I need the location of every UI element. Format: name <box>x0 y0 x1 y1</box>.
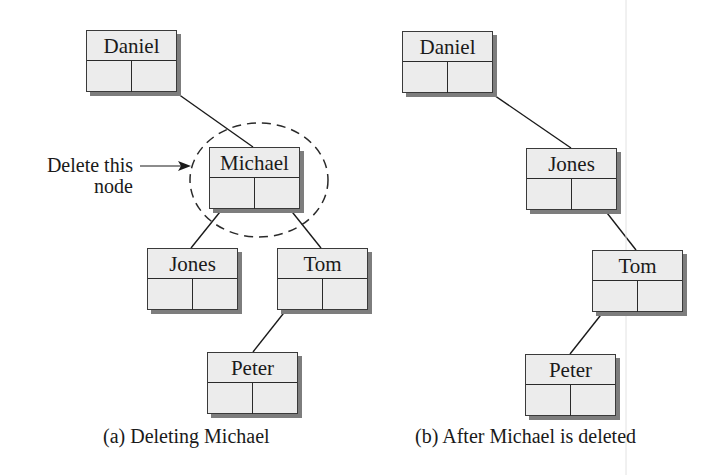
node-label: Tom <box>278 249 367 279</box>
left-pointer-cell <box>87 61 132 92</box>
left-pointer-cell <box>526 385 571 416</box>
node-label: Peter <box>526 355 615 385</box>
right-pointer-cell <box>193 279 237 310</box>
node-michael-a: Michael <box>209 147 300 209</box>
right-pointer-cell <box>132 61 176 92</box>
left-pointer-cell <box>210 178 255 209</box>
node-label: Daniel <box>403 32 492 62</box>
annotation-line2: node <box>33 176 133 197</box>
node-daniel-a: Daniel <box>86 30 177 92</box>
node-peter-b: Peter <box>525 354 616 416</box>
left-pointer-cell <box>403 62 448 93</box>
node-label: Jones <box>148 249 237 279</box>
node-peter-a: Peter <box>207 352 298 414</box>
node-label: Daniel <box>87 31 176 61</box>
node-tom-b: Tom <box>592 250 683 312</box>
node-daniel-b: Daniel <box>402 31 493 93</box>
node-label: Peter <box>208 353 297 383</box>
right-pointer-cell <box>323 279 367 310</box>
delete-annotation: Delete this node <box>33 155 133 197</box>
left-pointer-cell <box>527 179 572 210</box>
right-pointer-cell <box>255 178 299 209</box>
right-pointer-cell <box>572 179 616 210</box>
right-pointer-cell <box>638 281 682 312</box>
left-pointer-cell <box>278 279 323 310</box>
left-pointer-cell <box>593 281 638 312</box>
node-jones-a: Jones <box>147 248 238 310</box>
annotation-line1: Delete this <box>33 155 133 176</box>
caption-b: (b) After Michael is deleted <box>415 425 636 448</box>
right-pointer-cell <box>448 62 492 93</box>
right-pointer-cell <box>253 383 297 414</box>
node-tom-a: Tom <box>277 248 368 310</box>
node-jones-b: Jones <box>526 148 617 210</box>
node-label: Tom <box>593 251 682 281</box>
left-pointer-cell <box>208 383 253 414</box>
node-label: Michael <box>210 148 299 178</box>
node-label: Jones <box>527 149 616 179</box>
right-pointer-cell <box>571 385 615 416</box>
caption-a: (a) Deleting Michael <box>103 425 270 448</box>
left-pointer-cell <box>148 279 193 310</box>
